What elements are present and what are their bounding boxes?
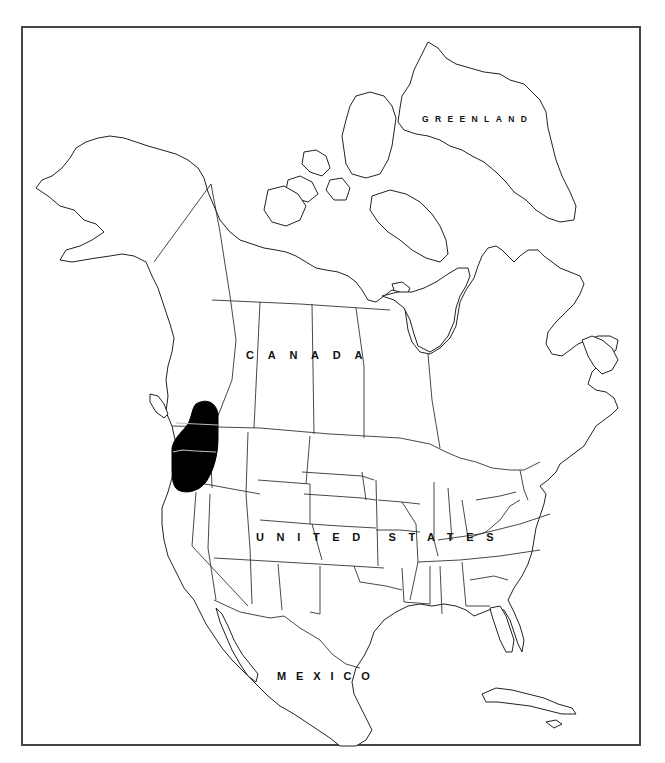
ellesmere-island [342, 92, 396, 178]
jamaica [546, 720, 562, 728]
north-america-mainland [36, 136, 618, 746]
north-america-map [0, 0, 665, 763]
vancouver-island [150, 394, 168, 418]
label-canada: CANADA [246, 349, 376, 361]
greenland-landmass [398, 42, 576, 222]
arctic-island [302, 150, 330, 176]
label-united-states: UNITED STATES [256, 531, 506, 543]
baffin-island [370, 190, 448, 262]
cuba [482, 688, 576, 714]
label-greenland: GREENLAND [422, 114, 533, 124]
arctic-island [326, 178, 350, 200]
label-mexico: MEXICO [277, 670, 380, 682]
